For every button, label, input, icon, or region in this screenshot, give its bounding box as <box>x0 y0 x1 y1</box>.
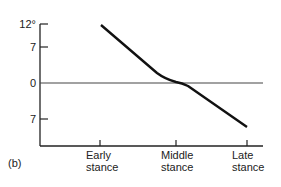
y-tick-label: 7 <box>30 41 36 53</box>
x-category-label: stance <box>232 161 264 173</box>
panel-label: (b) <box>8 157 21 169</box>
x-category-label: Middle <box>161 149 193 161</box>
x-category-label: Late <box>232 149 253 161</box>
y-tick-label: 7 <box>30 113 36 125</box>
chart: 12° 7 0 7 Early stance Middle stance Lat… <box>0 0 281 187</box>
x-category-label: Early <box>86 149 112 161</box>
x-category-label: stance <box>161 161 193 173</box>
y-tick-label: 0 <box>30 77 36 89</box>
x-category-label: stance <box>86 161 118 173</box>
data-line <box>101 25 247 127</box>
y-tick-label: 12° <box>19 18 36 30</box>
